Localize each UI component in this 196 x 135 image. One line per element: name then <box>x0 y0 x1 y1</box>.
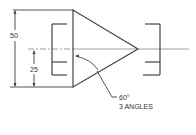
dimension-label-25: 25 <box>30 66 38 73</box>
right-bracket <box>143 24 160 75</box>
angle-label: 60° <box>119 94 130 101</box>
dimension-25: 25 <box>30 50 38 87</box>
arrow-left-icon <box>75 55 79 58</box>
angle-arc <box>76 56 98 70</box>
left-bracket <box>52 24 67 75</box>
technical-drawing: 50 25 60° 3 ANGLES <box>0 0 196 135</box>
arrow-down-icon <box>14 83 17 87</box>
angle-note: 3 ANGLES <box>119 103 153 110</box>
arrow-up-icon <box>14 10 17 14</box>
dimension-label-50: 50 <box>10 32 18 39</box>
arrow-down-icon <box>33 83 36 87</box>
dimension-50: 50 <box>10 10 18 87</box>
leader-line <box>97 71 117 97</box>
arrow-up-icon <box>33 50 36 54</box>
triangle-shape <box>73 10 138 87</box>
